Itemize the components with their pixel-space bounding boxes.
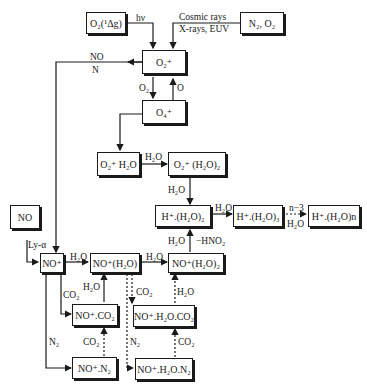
label-lyman-alpha: Ly-α — [28, 240, 46, 250]
box-no-plus-h2o: NO⁺(H₂O) — [90, 253, 140, 273]
label-h2o-c: H₂O — [215, 203, 232, 213]
box-h-plus-h2o-3: H⁺.(H₂O)₃ — [233, 205, 283, 227]
box-no-plus: NO⁺ — [40, 253, 64, 273]
box-o2-plus: O₂⁺ — [142, 50, 186, 74]
label-co2-d: CO₂ — [178, 337, 195, 347]
label-h2o-d: H₂O — [287, 219, 304, 229]
label-cosmic-rays: Cosmic rays — [179, 12, 226, 22]
box-no: NO — [10, 205, 40, 229]
box-no-plus-h2o-co2: NO⁺.H₂O.CO₂ — [133, 305, 195, 327]
label-xrays-euv: X-rays, EUV — [179, 24, 229, 34]
label-co2-a: CO₂ — [63, 290, 80, 300]
label-h2o-f: H₂O — [70, 252, 87, 262]
label-co2-b: CO₂ — [136, 287, 153, 297]
label-o2-reactant: O₂ — [139, 83, 149, 93]
label-hv: hν — [136, 13, 145, 23]
box-h-plus-h2o-n: H⁺.(H₂O)n — [308, 205, 360, 227]
box-no-plus-n2: NO⁺.N₂ — [72, 357, 117, 379]
label-n2-b: N₂ — [130, 337, 140, 347]
box-h-plus-h2o-2: H⁺.(H₂O)₂ — [155, 205, 211, 227]
label-h2o-h: H₂O — [83, 282, 100, 292]
box-no-plus-h2o-2: NO⁺(H₂O)₂ — [168, 253, 224, 273]
box-o2-singlet-delta: O₂(¹Δg) — [86, 12, 126, 34]
label-n-reactant: N — [92, 65, 99, 75]
label-h2o-b: H₂O — [168, 185, 185, 195]
box-no-plus-co2: NO⁺.CO₂ — [72, 304, 118, 326]
label-h2o-g: H₂O — [146, 252, 163, 262]
label-h2o-i: H₂O — [177, 287, 194, 297]
box-o4-plus: O₄⁺ — [142, 100, 186, 124]
label-no-reactant: NO — [90, 52, 104, 62]
label-h2o-e: H₂O — [168, 236, 185, 246]
label-o-reactant: O — [177, 83, 184, 93]
box-o2-plus-h2o-2: O₂⁺ (H₂O)₂ — [168, 152, 226, 176]
box-o2-plus-h2o: O₂⁺ H₂O — [97, 152, 140, 176]
label-n2-a: N₂ — [49, 337, 59, 347]
label-minus-hno2: −HNO₂ — [196, 236, 225, 246]
label-co2-c: CO₂ — [83, 337, 100, 347]
reaction-diagram: O₂(¹Δg) N₂, O₂ O₂⁺ O₄⁺ O₂⁺ H₂O O₂⁺ (H₂O)… — [0, 0, 367, 390]
box-n2-o2: N₂, O₂ — [240, 12, 284, 34]
label-h2o-a: H₂O — [145, 152, 162, 162]
label-n-minus-3: n−3 — [289, 203, 304, 213]
box-no-plus-h2o-n2: NO⁺.H₂O.N₂ — [135, 358, 193, 380]
